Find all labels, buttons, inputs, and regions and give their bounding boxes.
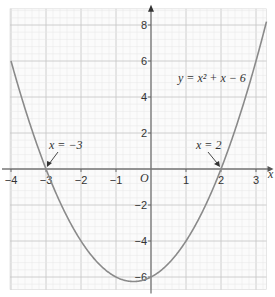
- x-tick-label: −2: [75, 174, 88, 186]
- y-tick-label: 6: [141, 55, 147, 67]
- y-tick-label: 4: [141, 91, 147, 103]
- root-left-label: x = −3: [48, 138, 83, 152]
- equation-label: y = x² + x − 6: [177, 71, 246, 85]
- x-tick-label: 1: [183, 174, 189, 186]
- y-tick-label: 2: [141, 127, 147, 139]
- root-right-label: x = 2: [195, 138, 221, 152]
- x-tick-label: 3: [253, 174, 259, 186]
- x-tick-label: −4: [5, 174, 18, 186]
- y-tick-label: −4: [134, 235, 147, 247]
- origin-label: O: [140, 171, 149, 185]
- y-tick-label: 8: [141, 19, 147, 31]
- y-tick-label: −2: [134, 199, 147, 211]
- x-axis-label: x: [267, 167, 274, 181]
- quadratic-graph: −4−3−2−11238642−2−4−6 y = x² + x − 6 x =…: [0, 0, 275, 297]
- x-tick-label: −1: [110, 174, 123, 186]
